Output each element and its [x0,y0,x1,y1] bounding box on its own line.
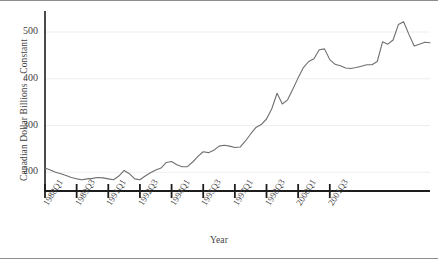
data-series-line [45,22,430,180]
y-tick-label: 400 [12,72,38,83]
y-tick-label: 500 [12,25,38,36]
gridlines [45,32,430,172]
y-tick-label: 200 [12,165,38,176]
y-tick-label: 300 [12,119,38,130]
x-axis-title: Year [0,235,438,245]
line-chart-plot [0,1,438,259]
chart-figure: Canadian Dollar Billions – Constant Year… [0,0,438,259]
